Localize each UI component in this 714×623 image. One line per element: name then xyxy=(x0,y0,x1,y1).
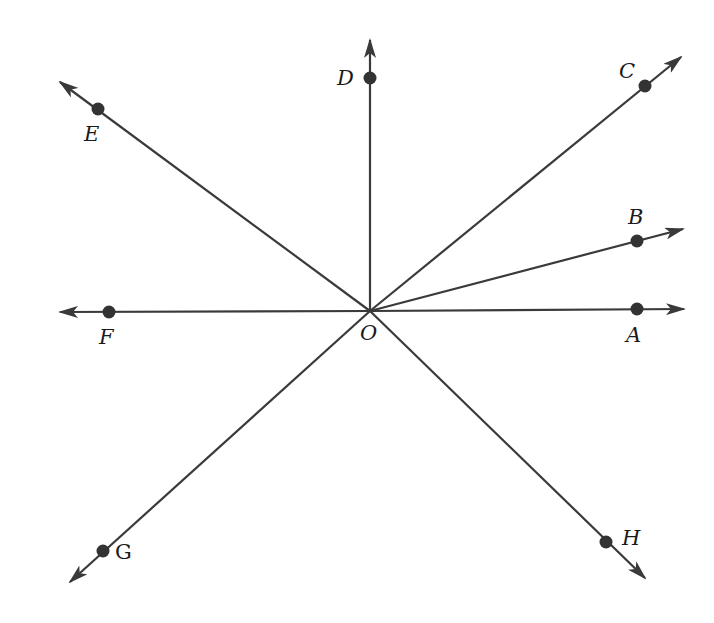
ray-OC xyxy=(370,57,681,311)
point-F xyxy=(103,306,116,319)
label-A: A xyxy=(624,323,641,347)
label-F: F xyxy=(98,325,115,349)
label-H: H xyxy=(621,526,641,550)
point-B xyxy=(631,235,644,248)
point-D xyxy=(364,72,377,85)
label-O: O xyxy=(360,321,377,345)
label-D: D xyxy=(336,66,354,90)
point-G xyxy=(97,545,110,558)
point-H xyxy=(600,536,613,549)
label-E: E xyxy=(83,122,99,146)
ray-OE xyxy=(60,82,370,311)
point-E xyxy=(92,103,105,116)
label-B: B xyxy=(627,205,643,229)
label-C: C xyxy=(619,59,635,83)
point-C xyxy=(639,80,652,93)
rays-diagram: O A B C D E F G H xyxy=(0,0,714,623)
point-A xyxy=(631,303,644,316)
label-G: G xyxy=(115,540,132,564)
